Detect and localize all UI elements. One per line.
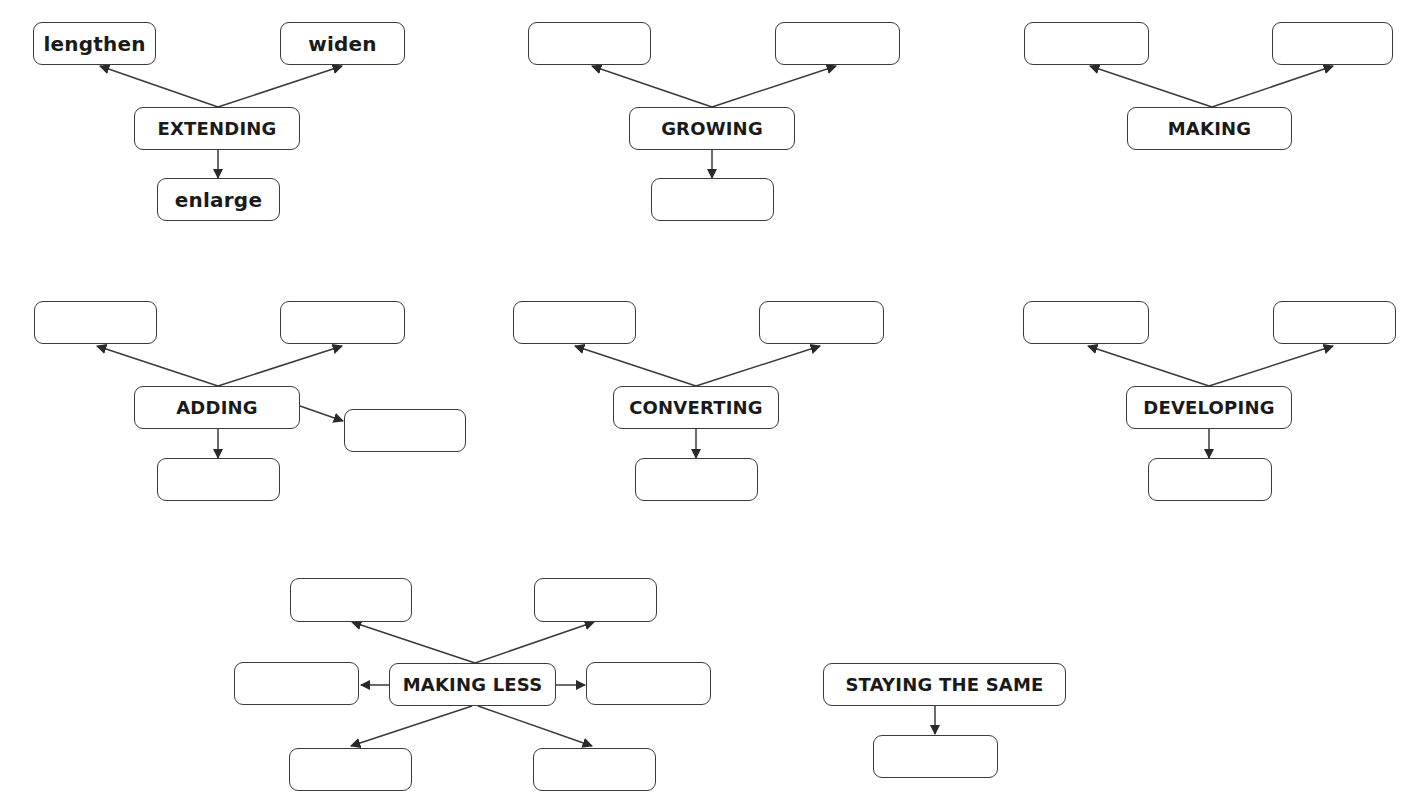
hub-box-making-less: MAKING LESS — [389, 663, 556, 706]
blank-answer-box-making-less[interactable] — [234, 662, 359, 705]
hub-box-staying-the-same: STAYING THE SAME — [823, 663, 1066, 706]
answer-box-enlarge: enlarge — [157, 178, 280, 221]
arrow-icon — [351, 706, 472, 746]
blank-answer-box-adding[interactable] — [344, 409, 466, 452]
answer-box-widen: widen — [280, 22, 405, 65]
blank-answer-box-adding[interactable] — [157, 458, 280, 501]
hub-box-extending: EXTENDING — [134, 107, 300, 150]
arrow-icon — [575, 346, 696, 386]
hub-box-adding: ADDING — [134, 386, 300, 429]
blank-answer-box-making[interactable] — [1272, 22, 1393, 65]
blank-answer-box-growing[interactable] — [775, 22, 900, 65]
blank-answer-box-growing[interactable] — [528, 22, 651, 65]
hub-box-converting: CONVERTING — [613, 386, 779, 429]
blank-answer-box-making-less[interactable] — [534, 578, 657, 622]
hub-box-making: MAKING — [1127, 107, 1292, 150]
arrow-icon — [712, 66, 836, 107]
arrow-icon — [592, 66, 712, 107]
blank-answer-box-making[interactable] — [1024, 22, 1149, 65]
arrow-icon — [352, 622, 475, 663]
blank-answer-box-growing[interactable] — [651, 178, 774, 221]
blank-answer-box-developing[interactable] — [1148, 458, 1272, 501]
arrow-icon — [218, 346, 342, 386]
blank-answer-box-adding[interactable] — [34, 301, 157, 344]
arrow-icon — [1212, 66, 1333, 107]
blank-answer-box-adding[interactable] — [280, 301, 405, 344]
blank-answer-box-making-less[interactable] — [290, 578, 412, 622]
hub-box-growing: GROWING — [629, 107, 795, 150]
answer-box-lengthen: lengthen — [33, 22, 156, 65]
blank-answer-box-converting[interactable] — [635, 458, 758, 501]
arrow-icon — [97, 346, 218, 386]
blank-answer-box-making-less[interactable] — [533, 748, 656, 791]
blank-answer-box-making-less[interactable] — [289, 748, 412, 791]
blank-answer-box-converting[interactable] — [759, 301, 884, 344]
arrow-icon — [1088, 346, 1209, 386]
arrow-icon — [696, 346, 820, 386]
blank-answer-box-staying-the-same[interactable] — [873, 735, 998, 778]
blank-answer-box-developing[interactable] — [1023, 301, 1149, 344]
blank-answer-box-converting[interactable] — [513, 301, 636, 344]
arrow-icon — [1090, 66, 1212, 107]
arrow-icon — [100, 66, 218, 107]
arrow-icon — [1209, 346, 1333, 386]
arrow-icon — [478, 706, 592, 746]
blank-answer-box-making-less[interactable] — [586, 662, 711, 705]
arrow-icon — [300, 406, 343, 421]
arrow-icon — [475, 622, 594, 663]
blank-answer-box-developing[interactable] — [1273, 301, 1396, 344]
hub-box-developing: DEVELOPING — [1126, 386, 1292, 429]
arrow-icon — [218, 66, 342, 107]
